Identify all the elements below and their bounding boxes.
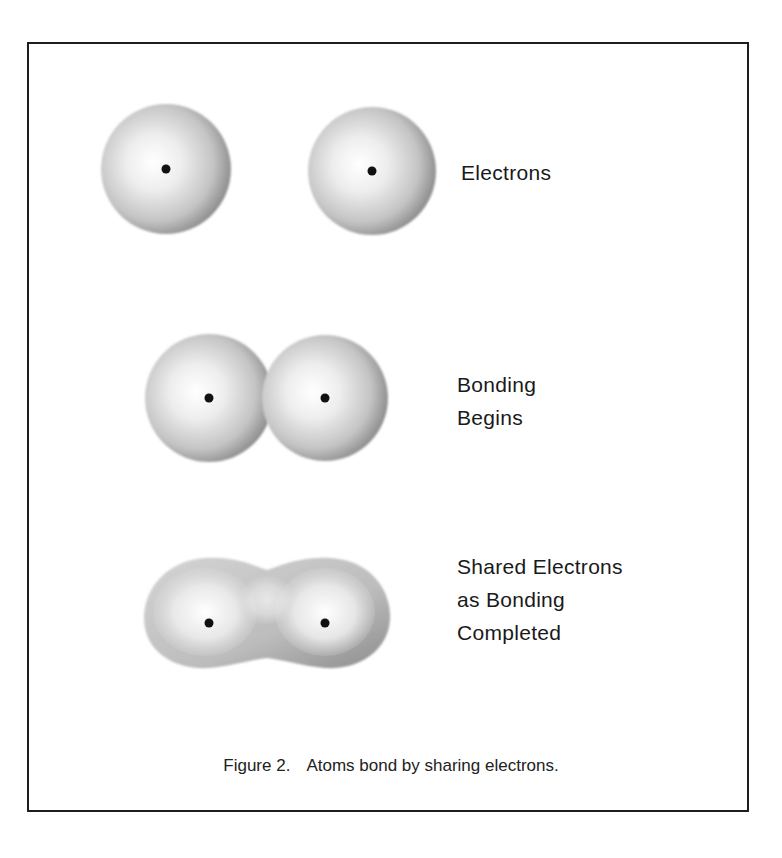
nucleus-dot — [321, 394, 330, 403]
label-bonding-begins: Bonding Begins — [457, 368, 536, 434]
atom-right — [308, 107, 436, 235]
nucleus-dot — [205, 394, 214, 403]
label-line: Electrons — [461, 156, 551, 189]
bonding-diagram — [0, 0, 782, 858]
label-line: Shared Electrons — [457, 550, 623, 583]
nucleus-dot — [368, 167, 377, 176]
label-shared-electrons: Shared Electrons as Bonding Completed — [457, 550, 623, 649]
stage-begins — [145, 334, 388, 462]
label-line: as Bonding — [457, 583, 623, 616]
stage-separate — [101, 104, 436, 235]
atom-left — [101, 104, 231, 234]
figure-caption: Figure 2.Atoms bond by sharing electrons… — [0, 756, 782, 776]
figure-number: Figure 2. — [223, 756, 290, 775]
caption-text: Atoms bond by sharing electrons. — [306, 756, 558, 775]
label-line: Begins — [457, 401, 536, 434]
stage-completed — [144, 558, 390, 668]
nucleus-dot — [205, 619, 214, 628]
nucleus-dot — [162, 165, 171, 174]
nucleus-dot — [321, 619, 330, 628]
label-electrons: Electrons — [461, 156, 551, 189]
label-line: Completed — [457, 616, 623, 649]
label-line: Bonding — [457, 368, 536, 401]
